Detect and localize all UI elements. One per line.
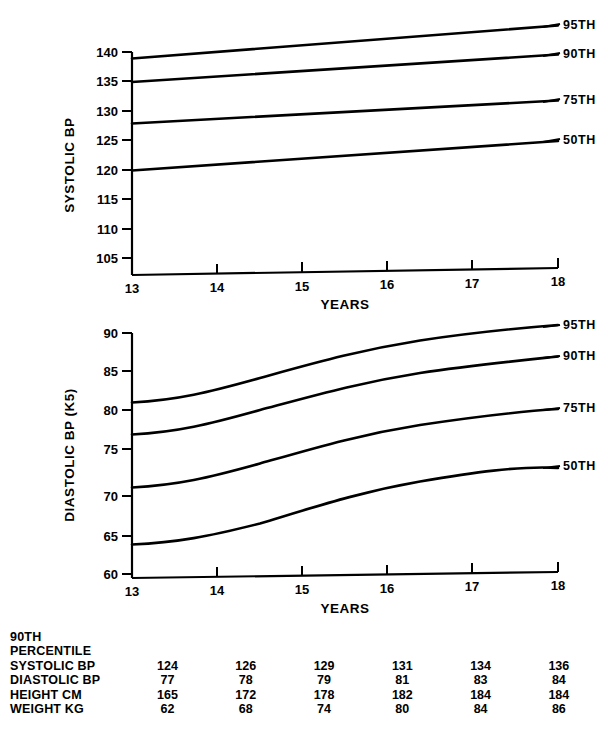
diastolic-y-tick-label: 65 bbox=[104, 529, 118, 544]
systolic-curve-75th bbox=[132, 101, 558, 124]
systolic-y-tick-label: 135 bbox=[96, 74, 118, 89]
systolic-y-ticks bbox=[122, 52, 132, 258]
diastolic-series-label-95th: 95TH bbox=[563, 318, 596, 332]
table-header-line-1: 90TH bbox=[10, 630, 598, 644]
diastolic-y-tick-label: 60 bbox=[104, 567, 118, 582]
systolic-x-axis bbox=[132, 268, 558, 275]
table-cell: 86 bbox=[520, 702, 598, 716]
table-cell: 81 bbox=[363, 673, 441, 687]
systolic-y-tick-label: 140 bbox=[96, 45, 118, 60]
diastolic-series-labels: 95TH 90TH 75TH 50TH bbox=[543, 318, 596, 473]
diastolic-bp-chart: 90 85 80 75 70 65 60 13 14 15 16 17 18 Y… bbox=[0, 310, 608, 625]
diastolic-x-tick-label: 14 bbox=[210, 583, 225, 598]
table-cell: 184 bbox=[441, 688, 519, 702]
systolic-curves bbox=[132, 26, 558, 171]
table-cell: 79 bbox=[285, 673, 363, 687]
systolic-series-label-95th: 95TH bbox=[563, 18, 596, 32]
table-cell: 83 bbox=[441, 673, 519, 687]
diastolic-y-ticks bbox=[122, 333, 132, 574]
table-cell: 126 bbox=[207, 659, 285, 673]
systolic-y-tick-label: 105 bbox=[96, 251, 118, 266]
diastolic-y-tick-label: 90 bbox=[104, 326, 118, 341]
diastolic-x-axis-title: YEARS bbox=[320, 601, 369, 616]
systolic-y-tick-label: 120 bbox=[96, 163, 118, 178]
diastolic-series-label-90th: 90TH bbox=[563, 349, 596, 363]
systolic-series-label-50th: 50TH bbox=[563, 133, 596, 147]
systolic-y-tick-label: 110 bbox=[97, 222, 118, 237]
diastolic-curves bbox=[132, 325, 558, 545]
table-cell: 80 bbox=[363, 702, 441, 716]
diastolic-series-label-75th: 75TH bbox=[563, 401, 596, 415]
percentile-values-table: SYSTOLIC BP 124 126 129 131 134 136 DIAS… bbox=[10, 659, 598, 717]
diastolic-x-tick-label: 13 bbox=[125, 584, 139, 599]
systolic-x-axis-title: YEARS bbox=[320, 297, 369, 310]
table-row-label: DIASTOLIC BP bbox=[10, 673, 128, 687]
systolic-series-labels: 95TH 90TH 75TH 50TH bbox=[543, 18, 596, 147]
systolic-series-label-90th: 90TH bbox=[563, 47, 596, 61]
percentile-data-table: 90TH PERCENTILE SYSTOLIC BP 124 126 129 … bbox=[10, 630, 598, 716]
systolic-curve-50th bbox=[132, 141, 558, 171]
table-row: SYSTOLIC BP 124 126 129 131 134 136 bbox=[10, 659, 598, 673]
systolic-x-tick-label: 17 bbox=[465, 276, 479, 291]
systolic-x-tick-label: 14 bbox=[210, 280, 225, 295]
systolic-x-tick-label: 13 bbox=[125, 281, 139, 296]
table-row: DIASTOLIC BP 77 78 79 81 83 84 bbox=[10, 673, 598, 687]
table-cell: 172 bbox=[207, 688, 285, 702]
table-cell: 77 bbox=[128, 673, 206, 687]
table-cell: 178 bbox=[285, 688, 363, 702]
systolic-y-tick-label: 115 bbox=[97, 192, 118, 207]
table-cell: 165 bbox=[128, 688, 206, 702]
diastolic-series-label-50th: 50TH bbox=[563, 459, 596, 473]
table-cell: 136 bbox=[520, 659, 598, 673]
systolic-y-axis-title: SYSTOLIC BP bbox=[62, 117, 77, 212]
systolic-y-tick-label: 125 bbox=[96, 133, 118, 148]
table-cell: 131 bbox=[363, 659, 441, 673]
table-cell: 124 bbox=[128, 659, 206, 673]
systolic-curve-90th bbox=[132, 55, 558, 83]
diastolic-y-axis-title: DIASTOLIC BP (K5) bbox=[62, 388, 77, 521]
diastolic-x-axis bbox=[132, 572, 558, 578]
table-cell: 182 bbox=[363, 688, 441, 702]
diastolic-y-tick-label: 70 bbox=[104, 489, 118, 504]
table-cell: 184 bbox=[520, 688, 598, 702]
diastolic-y-tick-label: 80 bbox=[104, 403, 118, 418]
table-cell: 68 bbox=[207, 702, 285, 716]
table-cell: 62 bbox=[128, 702, 206, 716]
table-row-label: SYSTOLIC BP bbox=[10, 659, 128, 673]
diastolic-x-tick-label: 18 bbox=[551, 578, 565, 593]
table-cell: 84 bbox=[441, 702, 519, 716]
table-row: WEIGHT KG 62 68 74 80 84 86 bbox=[10, 702, 598, 716]
diastolic-curve-75th bbox=[132, 409, 558, 488]
systolic-bp-chart: 140 135 130 125 120 115 110 105 13 14 15… bbox=[0, 0, 608, 310]
diastolic-x-tick-label: 15 bbox=[295, 582, 309, 597]
table-cell: 74 bbox=[285, 702, 363, 716]
systolic-x-tick-label: 15 bbox=[295, 279, 309, 294]
blood-pressure-percentile-figure: 140 135 130 125 120 115 110 105 13 14 15… bbox=[0, 0, 608, 736]
diastolic-y-tick-label: 75 bbox=[104, 442, 118, 457]
table-row-label: WEIGHT KG bbox=[10, 702, 128, 716]
table-header-line-2: PERCENTILE bbox=[10, 644, 598, 658]
table-cell: 84 bbox=[520, 673, 598, 687]
diastolic-x-tick-label: 16 bbox=[380, 581, 394, 596]
systolic-x-tick-label: 16 bbox=[380, 277, 394, 292]
table-row: HEIGHT CM 165 172 178 182 184 184 bbox=[10, 688, 598, 702]
systolic-curve-95th bbox=[132, 26, 558, 59]
systolic-x-tick-label: 18 bbox=[551, 274, 565, 289]
table-cell: 129 bbox=[285, 659, 363, 673]
systolic-y-tick-label: 130 bbox=[96, 104, 118, 119]
table-cell: 78 bbox=[207, 673, 285, 687]
table-cell: 134 bbox=[441, 659, 519, 673]
diastolic-x-tick-label: 17 bbox=[465, 579, 479, 594]
table-row-label: HEIGHT CM bbox=[10, 688, 128, 702]
systolic-series-label-75th: 75TH bbox=[563, 93, 596, 107]
diastolic-y-tick-label: 85 bbox=[104, 364, 118, 379]
